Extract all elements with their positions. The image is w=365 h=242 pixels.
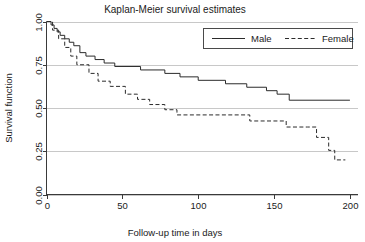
y-axis-ticks-group: 0.000.250.500.751.00 <box>33 13 46 205</box>
y-tick-label: 0.75 <box>33 56 44 75</box>
y-tick-label: 1.00 <box>33 13 44 32</box>
legend: Male Female <box>204 29 354 49</box>
x-tick-label: 100 <box>191 200 207 211</box>
x-tick-label: 0 <box>45 200 50 211</box>
chart-canvas: Kaplan-Meier survival estimates 0.000.25… <box>0 0 365 242</box>
y-tick-label: 0.25 <box>33 142 44 161</box>
legend-label-male: Male <box>251 33 272 44</box>
x-tick-label: 150 <box>267 200 283 211</box>
legend-label-female: Female <box>322 33 354 44</box>
kaplan-meier-chart: Kaplan-Meier survival estimates 0.000.25… <box>0 0 365 242</box>
x-axis-ticks-group: 050100150200 <box>45 195 359 211</box>
y-tick-label: 0.00 <box>33 186 44 205</box>
x-tick-label: 50 <box>117 200 128 211</box>
x-tick-label: 200 <box>343 200 359 211</box>
chart-title: Kaplan-Meier survival estimates <box>104 4 246 15</box>
y-axis-title: Survival function <box>3 73 14 143</box>
x-axis-title: Follow-up time in days <box>128 227 223 238</box>
y-tick-label: 0.50 <box>33 99 44 118</box>
